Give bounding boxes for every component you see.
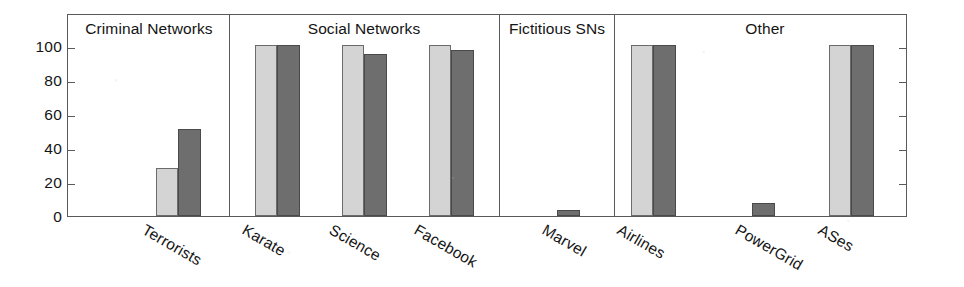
y-tick-label-80: 80 bbox=[44, 72, 62, 90]
x-tick-label-terrorists: Terrorists bbox=[139, 221, 205, 269]
panel-separator-1 bbox=[229, 15, 230, 216]
bar-airlines-light bbox=[631, 45, 653, 216]
y-tick-mark-60 bbox=[68, 116, 75, 117]
y-tick-mark-right-60 bbox=[899, 116, 906, 117]
panel-title-social-networks: Social Networks bbox=[308, 20, 421, 38]
x-tick-label-karate: Karate bbox=[239, 221, 289, 260]
bar-ases-dark bbox=[851, 45, 874, 216]
bar-terrorists-light bbox=[156, 168, 178, 216]
x-tick-label-science: Science bbox=[326, 221, 384, 265]
bar-airlines-dark bbox=[653, 45, 676, 216]
bar-chart-figure: 100 80 60 40 20 0 Criminal Networks Soci… bbox=[0, 0, 964, 287]
y-tick-mark-100 bbox=[68, 48, 75, 49]
y-tick-mark-20 bbox=[68, 184, 75, 185]
panel-title-criminal-networks: Criminal Networks bbox=[85, 20, 212, 38]
y-axis-tick-labels: 100 80 60 40 20 0 bbox=[18, 14, 62, 217]
y-tick-mark-right-20 bbox=[899, 184, 906, 185]
bar-science-light bbox=[342, 45, 364, 216]
x-tick-label-facebook: Facebook bbox=[411, 221, 480, 271]
y-tick-mark-right-100 bbox=[899, 48, 906, 49]
x-tick-label-airlines: Airlines bbox=[614, 221, 668, 263]
y-tick-mark-right-40 bbox=[899, 150, 906, 151]
bar-karate-dark bbox=[277, 45, 300, 216]
y-tick-label-60: 60 bbox=[44, 106, 62, 124]
panel-title-other: Other bbox=[745, 20, 784, 38]
x-axis-tick-labels: Terrorists Karate Science Facebook Marve… bbox=[0, 217, 964, 287]
panel-title-fictitious-sns: Fictitious SNs bbox=[509, 20, 605, 38]
x-tick-label-powergrid: PowerGrid bbox=[732, 221, 806, 274]
panel-separator-2 bbox=[499, 15, 500, 216]
bar-ases-light bbox=[829, 45, 851, 216]
y-tick-label-40: 40 bbox=[44, 140, 62, 158]
bar-facebook-light bbox=[429, 45, 451, 216]
y-tick-mark-80 bbox=[68, 82, 75, 83]
bar-powergrid-dark bbox=[752, 203, 775, 216]
bar-terrorists-dark bbox=[178, 129, 201, 216]
panel-separator-3 bbox=[614, 15, 615, 216]
plot-area: Criminal Networks Social Networks Fictit… bbox=[67, 14, 907, 217]
bar-karate-light bbox=[255, 45, 277, 216]
bar-facebook-dark bbox=[451, 50, 474, 216]
x-tick-label-ases: ASes bbox=[815, 221, 857, 256]
y-tick-label-100: 100 bbox=[36, 38, 62, 56]
y-tick-label-20: 20 bbox=[44, 174, 62, 192]
bar-marvel-dark bbox=[557, 210, 580, 216]
bar-science-dark bbox=[364, 54, 387, 216]
y-tick-mark-right-80 bbox=[899, 82, 906, 83]
y-tick-mark-40 bbox=[68, 150, 75, 151]
x-tick-label-marvel: Marvel bbox=[539, 221, 589, 260]
